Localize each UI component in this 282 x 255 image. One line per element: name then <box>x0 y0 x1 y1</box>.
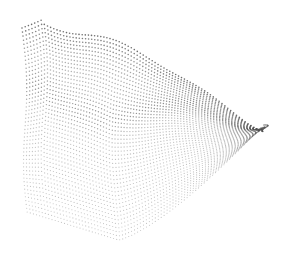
point-cloud-view <box>0 0 282 255</box>
point-cloud-image <box>0 0 282 255</box>
